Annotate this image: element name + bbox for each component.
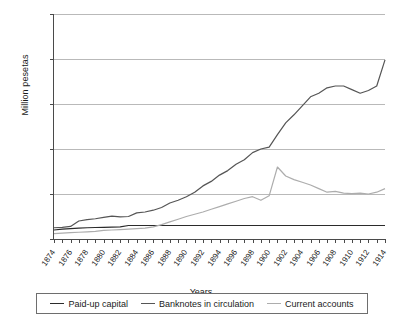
legend-label: Banknotes in circulation: [159, 299, 254, 309]
x-tick-1886: [153, 239, 154, 243]
x-tick-1900: [269, 239, 270, 243]
x-tick-1887: [162, 239, 163, 243]
x-tick-1875: [62, 239, 63, 243]
x-tick-1883: [128, 239, 129, 243]
chart-legend: Paid-up capitalBanknotes in circulationC…: [36, 293, 368, 314]
x-tick-1904: [302, 239, 303, 243]
x-tick-1894: [220, 239, 221, 243]
legend-swatch-icon: [50, 303, 64, 304]
x-tick-1898: [253, 239, 254, 243]
series-lines: [54, 14, 385, 239]
series-line-paid-up-capital: [54, 226, 385, 231]
x-tick-1893: [211, 239, 212, 243]
x-tick-1912: [368, 239, 369, 243]
series-line-banknotes-in-circulation: [54, 60, 385, 228]
x-tick-1891: [195, 239, 196, 243]
x-tick-1879: [95, 239, 96, 243]
x-tick-1888: [170, 239, 171, 243]
x-tick-1892: [203, 239, 204, 243]
y-axis-title: Million pesetas: [20, 20, 30, 150]
legend-item-banknotes-in-circulation[interactable]: Banknotes in circulation: [141, 299, 254, 309]
x-tick-1884: [137, 239, 138, 243]
x-tick-1913: [377, 239, 378, 243]
legend-item-current-accounts[interactable]: Current accounts: [267, 299, 354, 309]
x-tick-1895: [228, 239, 229, 243]
legend-label: Current accounts: [285, 299, 354, 309]
legend-item-paid-up-capital[interactable]: Paid-up capital: [50, 299, 128, 309]
x-tick-1903: [294, 239, 295, 243]
x-tick-1906: [319, 239, 320, 243]
x-tick-1882: [120, 239, 121, 243]
legend-swatch-icon: [141, 303, 155, 304]
x-tick-1881: [112, 239, 113, 243]
chart-figure: Million pesetas 05001000150020002500 187…: [0, 0, 402, 318]
series-line-current-accounts: [54, 167, 385, 234]
x-tick-1905: [311, 239, 312, 243]
x-tick-1874: [54, 239, 55, 243]
x-tick-1909: [344, 239, 345, 243]
x-tick-1907: [327, 239, 328, 243]
x-tick-1902: [286, 239, 287, 243]
legend-swatch-icon: [267, 303, 281, 304]
x-tick-1877: [79, 239, 80, 243]
x-tick-1897: [244, 239, 245, 243]
x-tick-1899: [261, 239, 262, 243]
x-tick-1911: [360, 239, 361, 243]
x-tick-1910: [352, 239, 353, 243]
x-tick-1896: [236, 239, 237, 243]
x-tick-1908: [335, 239, 336, 243]
x-tick-1878: [87, 239, 88, 243]
x-tick-1876: [71, 239, 72, 243]
x-tick-1901: [277, 239, 278, 243]
x-tick-1885: [145, 239, 146, 243]
x-tick-1880: [104, 239, 105, 243]
legend-label: Paid-up capital: [68, 299, 128, 309]
plot-area: 05001000150020002500 1874187618781880188…: [54, 14, 385, 238]
x-tick-1890: [186, 239, 187, 243]
x-tick-1914: [385, 239, 386, 243]
x-tick-1889: [178, 239, 179, 243]
